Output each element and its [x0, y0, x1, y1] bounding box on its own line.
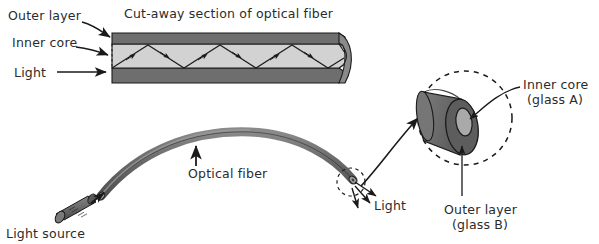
inner-core-leader	[76, 47, 108, 55]
label-light-source: Light source	[6, 226, 85, 241]
cutaway-fiber-graphic	[112, 33, 351, 83]
label-inner-core-glassA-line2: (glass A)	[527, 92, 583, 107]
cutaway-title: Cut-away section of optical fiber	[124, 6, 334, 21]
cutaway-outer-layer-top	[112, 33, 345, 44]
outer-layer-leader	[82, 22, 110, 37]
cutaway-inner-core	[112, 44, 347, 68]
label-inner-core: Inner core	[12, 35, 78, 50]
label-outer-layer: Outer layer	[8, 8, 82, 23]
optical-fiber-diagram: Cut-away section of optical fiber Outer …	[0, 0, 599, 244]
fiber-tube-body	[101, 132, 353, 196]
magnified-cylinder-graphic	[414, 90, 482, 157]
cutaway-outer-layer-bottom	[112, 68, 345, 83]
label-light-cutaway: Light	[14, 65, 46, 80]
light-source-graphic	[53, 193, 98, 225]
label-outer-layer-glassB-line1: Outer layer	[444, 202, 518, 217]
label-light-emitted: Light	[374, 198, 406, 213]
label-optical-fiber: Optical fiber	[188, 166, 268, 181]
label-inner-core-glassA-line1: Inner core	[523, 77, 589, 92]
magnify-connector-arrow	[361, 118, 418, 186]
label-outer-layer-glassB-line2: (glass B)	[452, 217, 508, 232]
